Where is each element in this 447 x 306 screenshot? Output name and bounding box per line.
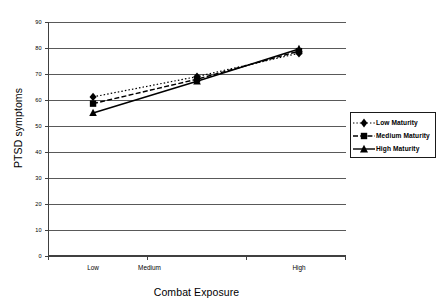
series-high-maturity — [89, 45, 303, 116]
legend-item-high-maturity: High Maturity — [353, 142, 419, 155]
y-tick-label: 20 — [20, 201, 42, 207]
y-tick-label: 70 — [20, 71, 42, 77]
legend-label-low-maturity: Low Maturity — [376, 119, 418, 126]
legend-marker-square-icon — [353, 130, 375, 142]
legend-marker-triangle-icon — [353, 143, 375, 155]
legend-marker-diamond-icon — [353, 117, 375, 129]
x-tick-label: High — [276, 264, 322, 271]
legend-label-high-maturity: High Maturity — [376, 145, 419, 152]
legend-label-medium-maturity: Medium Maturity — [376, 132, 430, 139]
legend: Low Maturity Medium Maturity High Maturi… — [350, 112, 436, 158]
y-tick-label: 50 — [20, 123, 42, 129]
legend-item-low-maturity: Low Maturity — [353, 116, 418, 129]
y-tick-label: 90 — [20, 19, 42, 25]
legend-item-medium-maturity: Medium Maturity — [353, 129, 430, 142]
x-tick-label: Medium — [126, 264, 172, 271]
y-tick-label: 40 — [20, 149, 42, 155]
chart-figure: PTSD symptoms Combat Exposure 0102030405… — [0, 0, 447, 306]
x-axis-title: Combat Exposure — [48, 286, 345, 298]
y-tick-label: 10 — [20, 227, 42, 233]
y-tick-label: 0 — [20, 253, 42, 259]
y-tick-label: 60 — [20, 97, 42, 103]
series-medium-maturity — [90, 48, 302, 107]
y-tick-label: 80 — [20, 45, 42, 51]
series-low-maturity — [89, 49, 302, 101]
gridlines — [49, 22, 346, 256]
y-tick-label: 30 — [20, 175, 42, 181]
x-tick-label: Low — [70, 264, 116, 271]
axis-lines — [49, 22, 346, 256]
